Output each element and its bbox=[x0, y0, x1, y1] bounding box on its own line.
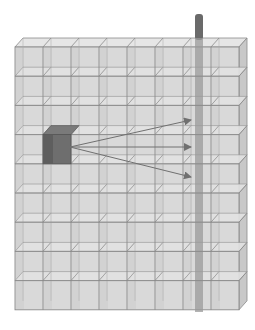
grid-right-face bbox=[239, 38, 247, 310]
rod-inside-grid bbox=[195, 38, 203, 312]
cube-grid-canvas bbox=[0, 0, 255, 330]
cube-grid-diagram bbox=[0, 0, 255, 330]
rod-top bbox=[195, 14, 203, 40]
highlighted-cube-side bbox=[43, 135, 53, 164]
